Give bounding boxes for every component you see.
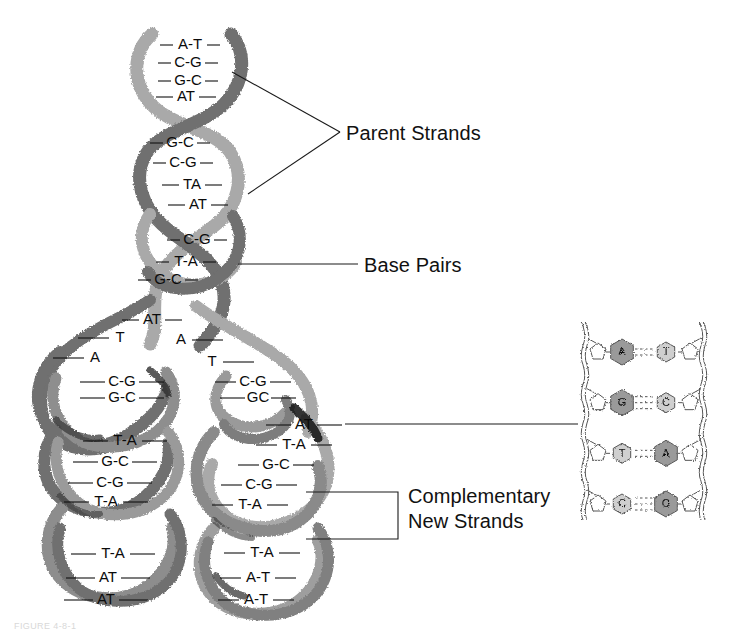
base-pair-label: A-T: [246, 568, 270, 585]
base-pair-label: T-A: [250, 543, 273, 560]
base-pair: T-A: [71, 544, 155, 561]
base-pair-label: T-A: [101, 544, 124, 561]
base-pair-label: AT: [189, 195, 207, 212]
inset-base-label: A: [618, 345, 626, 357]
base-pair-label: C-G: [169, 153, 197, 170]
base-pair-label: T-A: [174, 252, 197, 269]
base-pair-label: C-G: [245, 475, 273, 492]
base-pair-label: C-G: [183, 230, 211, 247]
inset-phosphate: [587, 439, 596, 444]
unpaired-base-label: A: [90, 348, 100, 365]
base-pair-label: C-G: [174, 53, 202, 70]
leader-parent-upper: [232, 72, 340, 132]
inset-base-pair: GC: [587, 389, 701, 416]
base-pair: AT: [156, 87, 216, 104]
leader-parent-lower: [248, 132, 340, 194]
inset-base-label: A: [662, 447, 670, 459]
base-pair-label: GC: [247, 388, 270, 405]
base-pair-label: G-C: [154, 270, 182, 287]
inset-phosphate: [692, 439, 701, 444]
label-complementary-new-strands-line2: New Strands: [408, 509, 524, 534]
base-pair-label: G-C: [174, 71, 202, 88]
inset-base-pair: CG: [587, 490, 701, 517]
inset-base-label: C: [662, 396, 670, 408]
inset-phosphate: [692, 338, 701, 343]
base-pair-label: AT: [295, 415, 313, 432]
inset-sugar: [682, 495, 698, 511]
base-pair-label: T-A: [113, 431, 136, 448]
base-pair: C-G: [68, 473, 152, 490]
inset-sugar: [682, 394, 698, 410]
base-pair-label: G-C: [262, 455, 290, 472]
unpaired-base-label: T: [207, 352, 216, 369]
base-pair: AT: [168, 195, 228, 212]
label-parent-strands: Parent Strands: [346, 121, 481, 146]
inset-sugar: [590, 495, 606, 511]
inset-phosphate: [587, 389, 596, 394]
base-pair-label: A-T: [244, 590, 268, 607]
inset-backbone: [581, 322, 585, 520]
base-pair-label: TA: [183, 175, 201, 192]
inset-base-pair: TA: [587, 439, 701, 466]
base-pair: G-C: [80, 388, 164, 405]
base-pair-label: C-G: [96, 473, 124, 490]
inset-base-label: G: [662, 497, 671, 509]
base-pair: A-T: [220, 568, 296, 585]
base-pair-label: AT: [177, 87, 195, 104]
inset-base-label: T: [619, 447, 626, 459]
unpaired-base-label: T: [115, 328, 124, 345]
base-pair: T-A: [224, 543, 300, 560]
base-pair-label: T-A: [94, 492, 117, 509]
label-base-pairs: Base Pairs: [364, 253, 462, 278]
base-pair-label: AT: [99, 568, 117, 585]
unpaired-base-label: A: [176, 330, 186, 347]
label-complementary-new-strands-line1: Complementary: [408, 484, 550, 509]
base-pair: C-G: [221, 475, 297, 492]
inset-sugar: [682, 444, 698, 460]
inset-base-label: G: [618, 396, 627, 408]
base-pair: A-T: [160, 35, 220, 52]
base-pair: G-C: [238, 455, 314, 472]
base-pair-label: AT: [143, 310, 161, 327]
inset-sugar: [590, 343, 606, 359]
base-pair: C-G: [153, 153, 213, 170]
base-pair-closeup-inset: ATGCTACG: [581, 322, 707, 520]
base-pair-label: G-C: [101, 452, 129, 469]
inset-phosphate: [692, 490, 701, 495]
base-pair-label: G-C: [166, 133, 194, 150]
inset-sugar: [590, 444, 606, 460]
base-pair-label: C-G: [239, 372, 267, 389]
inset-base-label: T: [663, 345, 670, 357]
base-pair: C-G: [158, 53, 218, 70]
base-pair: TA: [162, 175, 222, 192]
figure-canvas: A-TC-GG-CATG-CC-GTAATC-GT-AG-CATC-GG-CT-…: [0, 0, 743, 639]
base-pair-label: C-G: [108, 372, 136, 389]
figure-caption: FIGURE 4-8-1: [14, 621, 76, 631]
inset-sugar: [590, 394, 606, 410]
base-pair-label: T-A: [282, 435, 305, 452]
base-pair-label: A-T: [178, 35, 202, 52]
inset-sugar: [682, 343, 698, 359]
inset-base-label: C: [618, 497, 626, 509]
inset-base-pair: AT: [587, 338, 701, 365]
inset-backbone: [703, 322, 707, 520]
base-pair-label: AT: [97, 590, 115, 607]
base-pair-label: T-A: [238, 495, 261, 512]
base-pair-label: G-C: [108, 388, 136, 405]
dna-replication-figure: A-TC-GG-CATG-CC-GTAATC-GT-AG-CATC-GG-CT-…: [0, 0, 743, 639]
unpaired-base: T: [207, 352, 254, 369]
base-pair: G-C: [158, 71, 218, 88]
